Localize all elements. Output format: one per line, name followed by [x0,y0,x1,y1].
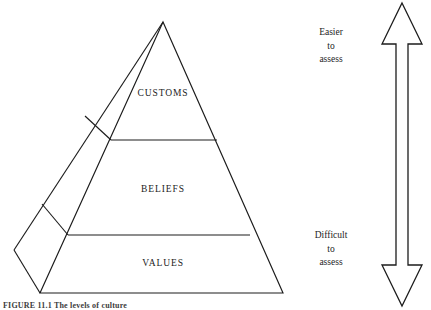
scale-note-line: assess [315,256,348,270]
figure-container: CUSTOMS BELIEFS VALUES Easier to assess … [0,0,431,310]
pyramid-back-left-edge [14,22,163,250]
pyramid-diagram [0,0,431,310]
double-headed-vertical-arrow-shape [382,3,422,306]
scale-note-line: Easier [319,26,343,40]
pyramid-tier-label-values: VALUES [142,258,184,268]
scale-note-difficult-to-assess: Difficult to assess [315,229,348,270]
scale-note-line: assess [319,53,343,67]
scale-note-line: to [319,40,343,54]
scale-note-easier-to-assess: Easier to assess [319,26,343,67]
pyramid-tier-label-customs: CUSTOMS [137,88,188,98]
figure-caption: FIGURE 11.1 The levels of culture [3,301,423,310]
pyramid-left-base-edge [14,250,40,293]
pyramid-front-face [40,22,283,293]
tier-divider-beliefs-values-side [42,204,68,235]
pyramid-tier-label-beliefs: BELIEFS [141,184,185,194]
scale-note-line: to [315,243,348,257]
scale-note-line: Difficult [315,229,348,243]
